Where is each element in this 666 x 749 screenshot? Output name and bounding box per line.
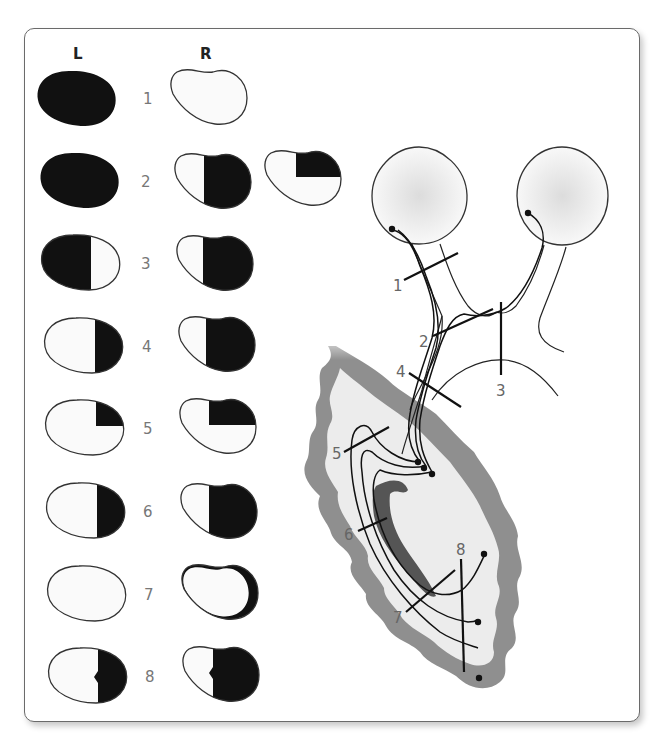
field-row-8: 8 — [49, 633, 281, 715]
field-row-1: 1 — [38, 70, 247, 126]
lesion-label-4: 4 — [396, 363, 406, 381]
right-field-half — [175, 140, 264, 220]
row-number: 5 — [143, 420, 153, 438]
left-field-right-half — [47, 470, 157, 550]
right-field-half — [177, 222, 263, 302]
left-field-macular-sparing — [49, 635, 148, 715]
left-eye — [372, 147, 467, 244]
visual-pathway-diagram: L R 1 2 3 — [0, 0, 666, 749]
row-number: 6 — [143, 503, 153, 521]
lesion-label-6: 6 — [344, 526, 354, 544]
field-row-5: 5 — [46, 385, 269, 455]
lesion-label-7: 7 — [393, 609, 403, 627]
row-number: 2 — [141, 173, 151, 191]
lesion-label-2: 2 — [419, 333, 429, 351]
lesion-label-3: 3 — [496, 382, 506, 400]
lesion-label-8: 8 — [456, 541, 466, 559]
row-number: 4 — [142, 338, 152, 356]
field-row-2: 2 — [41, 137, 356, 220]
field-row-3: 3 — [31, 222, 263, 302]
right-field-quadrant — [180, 385, 269, 453]
lesion-label-1: 1 — [393, 277, 403, 295]
field-row-6: 6 — [47, 470, 269, 550]
right-field-half — [181, 470, 269, 550]
left-field-quadrant — [46, 387, 156, 455]
left-field-full — [38, 71, 116, 126]
left-field-right-half — [45, 305, 155, 385]
right-eye — [517, 147, 608, 245]
right-field-crescent — [182, 565, 258, 620]
left-field-full — [41, 153, 119, 208]
field-row-7: 7 — [48, 565, 258, 621]
left-field-empty — [48, 566, 126, 621]
row-number: 1 — [143, 90, 153, 108]
field-row-4: 4 — [45, 303, 266, 385]
right-field-half — [179, 303, 266, 383]
column-header-right: R — [200, 45, 212, 63]
row-number: 7 — [144, 586, 154, 604]
occipital-cortex — [300, 330, 522, 688]
right-field-empty — [171, 70, 247, 125]
lesion-label-5: 5 — [332, 445, 342, 463]
right-field-quadrant-extra — [265, 137, 356, 205]
left-field-left-half — [31, 222, 120, 302]
column-header-left: L — [73, 45, 83, 63]
right-field-macular-sparing — [183, 633, 281, 713]
row-number: 8 — [145, 668, 155, 686]
row-number: 3 — [141, 255, 151, 273]
